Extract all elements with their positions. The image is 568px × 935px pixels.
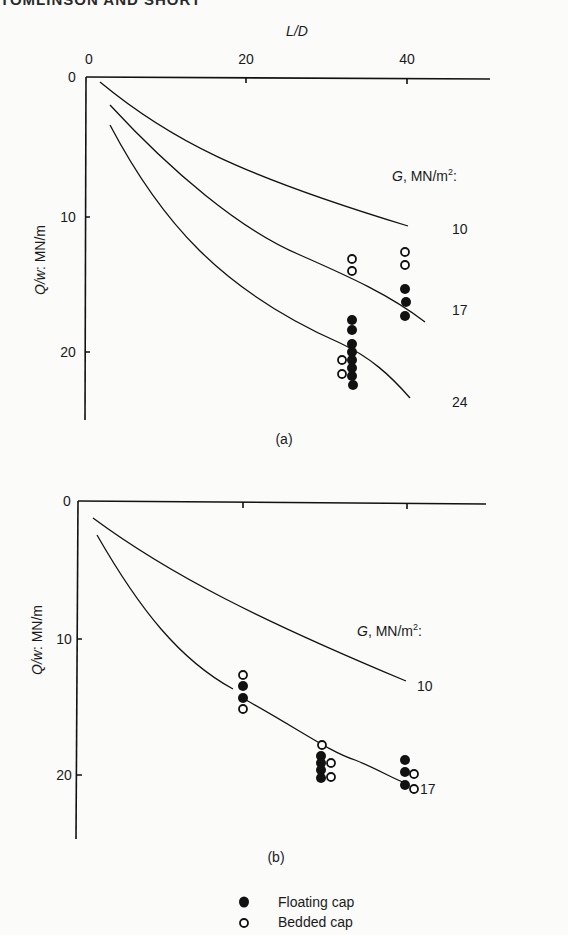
y-axis <box>76 501 78 839</box>
legend-floating-cap: Floating cap <box>278 894 354 910</box>
x-axis-title: L/D <box>286 23 308 39</box>
series-floating-cap-a <box>347 284 411 390</box>
chart-panel-a: L/D 0 20 40 0 10 20 Q/w: MN/m G, MN/m2: … <box>32 23 490 447</box>
y-tick-label-0: 0 <box>63 493 71 509</box>
y-tick-label-20: 20 <box>56 767 72 783</box>
curve-label-10: 10 <box>417 678 433 694</box>
curve-label-17: 17 <box>420 781 436 797</box>
panel-label-a: (a) <box>275 431 292 447</box>
y-tick-label-20: 20 <box>60 344 76 360</box>
axis-ticks <box>85 77 407 352</box>
curve-g24 <box>110 125 410 398</box>
y-tick-label-0: 0 <box>68 69 76 85</box>
y-axis-title: Q/w: MN/m <box>29 605 45 675</box>
filled-circle-marker-icon <box>239 897 249 908</box>
series-bedded-cap-b <box>239 671 418 793</box>
x-tick-label-40: 40 <box>399 51 415 67</box>
y-axis-title: Q/w: MN/m <box>32 225 48 295</box>
curve-g10 <box>93 518 406 681</box>
x-axis <box>86 77 490 79</box>
curve-label-17: 17 <box>452 302 468 318</box>
curve-g17 <box>110 105 425 322</box>
figure: L/D 0 20 40 0 10 20 Q/w: MN/m G, MN/m2: … <box>0 0 568 935</box>
curve-label-24: 24 <box>452 394 468 410</box>
open-circle-marker-icon <box>240 919 248 927</box>
curve-g17 <box>97 535 408 784</box>
chart-panel-b: 0 10 20 Q/w: MN/m G, MN/m2: 10 17 (b) <box>29 493 486 865</box>
x-tick-label-20: 20 <box>238 51 254 67</box>
y-tick-label-10: 10 <box>60 209 76 225</box>
g-legend-title: G, MN/m2: <box>357 622 422 639</box>
legend-bedded-cap: Bedded cap <box>278 914 353 930</box>
panel-label-b: (b) <box>267 849 284 865</box>
x-axis <box>78 501 486 504</box>
g-legend-title: G, MN/m2: <box>392 167 457 184</box>
legend: Floating cap Bedded cap <box>239 894 354 930</box>
y-axis <box>85 77 86 420</box>
curve-label-10: 10 <box>452 221 468 237</box>
x-tick-label-0: 0 <box>85 51 93 67</box>
y-tick-label-10: 10 <box>56 631 72 647</box>
curve-g10 <box>100 82 408 226</box>
